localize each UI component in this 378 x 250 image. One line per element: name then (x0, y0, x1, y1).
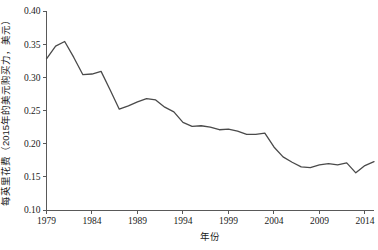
y-tick-label: 0.40 (24, 6, 41, 16)
x-axis-title: 年份 (200, 231, 220, 242)
x-tick-label: 1989 (128, 216, 147, 226)
x-axis-ticks: 19791984198919941999200420092014 (37, 210, 375, 226)
y-tick-label: 0.20 (24, 139, 41, 149)
y-tick-label: 0.25 (24, 106, 41, 116)
y-tick-label: 0.15 (24, 172, 41, 182)
data-series-line (47, 42, 375, 173)
x-tick-label: 1999 (219, 216, 238, 226)
x-axis-group: 19791984198919941999200420092014 年份 (37, 210, 375, 242)
y-axis-group: 0.100.150.200.250.300.350.40 每英里花费（2015年… (0, 6, 47, 215)
x-tick-label: 2004 (264, 216, 283, 226)
x-tick-label: 2014 (355, 216, 374, 226)
chart-container: 0.100.150.200.250.300.350.40 每英里花费（2015年… (0, 0, 378, 250)
x-tick-label: 1979 (37, 216, 56, 226)
y-axis-ticks: 0.100.150.200.250.300.350.40 (24, 6, 47, 215)
y-tick-label: 0.35 (24, 40, 41, 50)
x-tick-label: 2009 (310, 216, 329, 226)
y-tick-label: 0.30 (24, 73, 41, 83)
y-axis-title: 每英里花费（2015年的美元购买力，美元） (0, 15, 11, 206)
y-tick-label: 0.10 (24, 205, 41, 215)
plot-area (47, 42, 375, 173)
line-chart: 0.100.150.200.250.300.350.40 每英里花费（2015年… (0, 0, 378, 250)
x-tick-label: 1994 (173, 216, 192, 226)
x-tick-label: 1984 (82, 216, 101, 226)
